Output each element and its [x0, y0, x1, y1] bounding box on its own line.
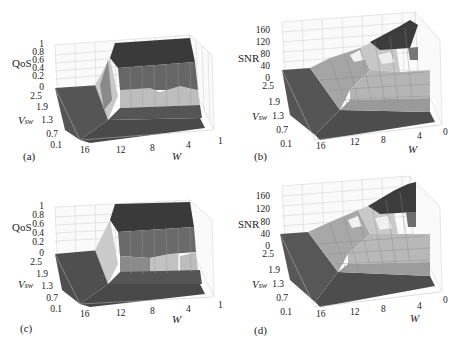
v-tick: 1.3: [31, 116, 53, 125]
v-tick: 0.7: [266, 294, 288, 303]
w-tick: 8: [381, 305, 386, 314]
v-tick: 0.7: [36, 294, 58, 303]
panel-label: (b): [254, 150, 267, 162]
w-tick: 16: [316, 142, 326, 151]
z-tick: 160: [246, 26, 270, 35]
z-tick: 160: [246, 192, 270, 201]
w-tick: 4: [186, 305, 191, 314]
v-tick: 0.1: [40, 141, 62, 150]
z-tick: 120: [246, 38, 270, 47]
v-tick: 1.9: [26, 103, 48, 112]
panel-label: (a): [23, 150, 35, 162]
v-tick: 0.1: [40, 305, 62, 314]
w-tick: 8: [381, 136, 386, 145]
w-tick: 1: [218, 301, 223, 310]
panel-c: 1 0.8 0.6 0.4 0.2 0 QoS 2.5 1.9 1.3 0.7 …: [0, 172, 230, 345]
z-tick: 0.2: [20, 72, 44, 81]
w-tick: 4: [186, 141, 191, 150]
z-tick: 120: [246, 205, 270, 214]
z-axis-label: QoS: [12, 221, 32, 233]
v-tick: 2.5: [20, 258, 42, 267]
panel-label: (c): [20, 322, 32, 334]
y-axis-label: Vsw: [252, 278, 267, 290]
w-tick: 16: [80, 146, 90, 155]
w-tick: 0: [443, 296, 448, 305]
v-tick: 0.7: [266, 126, 288, 135]
v-tick: 0.7: [36, 130, 58, 139]
v-tick: 0.1: [270, 308, 292, 317]
w-tick: 4: [417, 132, 422, 141]
v-tick: 2.5: [252, 82, 274, 91]
z-axis-label: SNR: [238, 52, 259, 64]
v-tick: 1.9: [258, 98, 280, 107]
z-axis-label: QoS: [12, 57, 32, 69]
x-axis-label: W: [172, 313, 181, 325]
x-axis-label: W: [172, 150, 181, 162]
w-tick: 16: [316, 310, 326, 319]
w-tick: 16: [80, 310, 90, 319]
z-tick: 40: [246, 230, 270, 239]
w-tick: 4: [417, 302, 422, 311]
panel-d: 160 120 80 40 0 SNR 2.5 1.9 1.3 0.7 0.1 …: [230, 172, 460, 345]
w-tick: 12: [350, 138, 360, 147]
w-tick: 8: [150, 144, 155, 153]
panel-b: 160 120 80 40 0 SNR 2.5 1.9 1.3 0.7 0.1 …: [230, 0, 460, 173]
w-tick: 8: [150, 307, 155, 316]
panel-a: 1 0.8 0.6 0.4 0.2 0 QoS 2.5 1.9 1.3 0.7 …: [0, 0, 230, 173]
y-axis-label: Vsw: [18, 278, 33, 290]
x-axis-label: W: [410, 312, 419, 324]
x-axis-label: W: [408, 143, 417, 155]
w-tick: 12: [350, 308, 360, 317]
panel-label: (d): [254, 324, 267, 336]
v-tick: 2.5: [252, 250, 274, 259]
z-axis-label: SNR: [238, 218, 259, 230]
w-tick: 0: [443, 128, 448, 137]
w-tick: 12: [116, 309, 126, 318]
w-tick: 12: [116, 146, 126, 155]
v-tick: 1.3: [31, 282, 53, 291]
y-axis-label: Vsw: [252, 110, 267, 122]
v-tick: 2.5: [20, 92, 42, 101]
v-tick: 1.9: [258, 266, 280, 275]
y-axis-label: Vsw: [18, 114, 33, 126]
z-tick: 0.2: [20, 238, 44, 247]
w-tick: 1: [218, 137, 223, 146]
v-tick: 0.1: [270, 140, 292, 149]
